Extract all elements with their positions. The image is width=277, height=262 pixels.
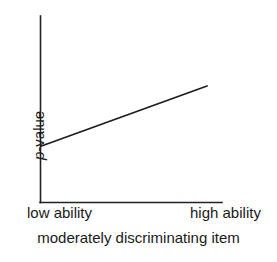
figure-caption: moderately discriminating item bbox=[0, 229, 277, 246]
x-tick-label-low-ability: low ability bbox=[27, 204, 92, 221]
figure-item-characteristic-curve: p-value low ability high ability moderat… bbox=[0, 0, 277, 262]
x-tick-label-high-ability: high ability bbox=[190, 204, 261, 221]
y-axis-label: p-value bbox=[30, 40, 50, 160]
data-line-moderate-item bbox=[42, 86, 208, 146]
y-axis-label-italic-p: p bbox=[30, 152, 47, 160]
y-axis-label-rest: -value bbox=[30, 111, 47, 152]
